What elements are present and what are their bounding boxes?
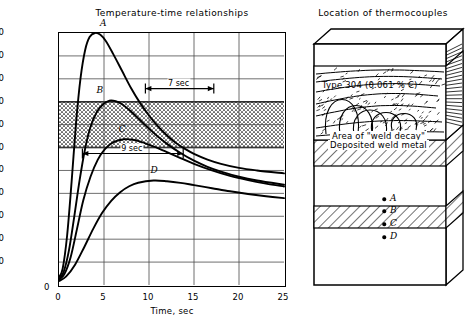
plot-area [58, 32, 286, 287]
thermocouple-label-c: C [390, 218, 397, 228]
deposited-weld-metal-label: Deposited weld metal [328, 140, 429, 150]
thermocouple-dot-b [382, 209, 386, 213]
x-axis-label: Time, sec [58, 306, 286, 316]
thermocouple-label-b: B [390, 205, 397, 215]
thermocouple-dot-d [382, 235, 386, 239]
x-tick-10: 10 [142, 292, 153, 302]
y-tick-2200: 2200 [0, 27, 4, 37]
y-tick-1800: 1800 [0, 73, 4, 83]
diagram-title: Location of thermocouples [296, 8, 470, 18]
y-tick-200: 200 [0, 256, 4, 266]
thermocouple-label-d: D [390, 231, 397, 241]
temperature-curves [59, 33, 284, 281]
y-tick-400: 400 [0, 233, 4, 243]
thermocouple-location-panel: Location of thermocouples [296, 0, 470, 325]
chart-title: Temperature-time relationships [58, 8, 286, 18]
thermocouple-dot-a [382, 197, 386, 201]
curve-label-a: A [100, 18, 107, 28]
material-spec-label: Type 304 (0.061 % C) [322, 80, 418, 90]
curve-label-c: C [119, 124, 126, 134]
x-tick-5: 5 [100, 292, 106, 302]
y-tick-1600: 1600 [0, 96, 4, 106]
chart-svg [59, 33, 284, 285]
curve-label-b: B [96, 85, 103, 95]
x-tick-20: 20 [232, 292, 243, 302]
x-tick-0: 0 [55, 292, 61, 302]
y-tick-0: 0 [44, 282, 49, 292]
y-tick-2000: 2000 [0, 50, 4, 60]
y-tick-1000: 1000 [0, 164, 4, 174]
weld-cross-section-svg [296, 22, 470, 322]
y-tick-600: 600 [0, 210, 4, 220]
y-tick-800: 800 [0, 187, 4, 197]
y-tick-1400: 1400 [0, 119, 4, 129]
thermocouple-dot-c [382, 222, 386, 226]
annotation-9-sec: 9 sec [120, 143, 143, 152]
temperature-time-chart-panel: Temperature-time relationships Temperatu… [0, 0, 296, 325]
curve-label-d: D [151, 165, 158, 175]
gridlines [59, 33, 284, 285]
x-tick-25: 25 [277, 292, 288, 302]
y-tick-1200: 1200 [0, 142, 4, 152]
x-tick-15: 15 [187, 292, 198, 302]
thermocouple-label-a: A [390, 193, 397, 203]
annotation-7-sec: 7 sec [167, 78, 190, 87]
